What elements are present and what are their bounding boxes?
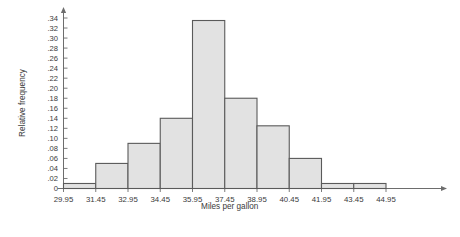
y-axis-title: Relative frequency bbox=[18, 68, 27, 137]
x-tick-label-8: 41.95 bbox=[312, 195, 332, 204]
y-tick-label-16: .32 bbox=[47, 24, 58, 33]
histogram-bar bbox=[354, 183, 386, 188]
y-tick-label-10: .20 bbox=[47, 84, 58, 93]
y-tick-label-14: .28 bbox=[47, 44, 58, 53]
histogram-bar bbox=[225, 98, 257, 188]
y-tick-label-12: .24 bbox=[47, 64, 58, 73]
histogram-bar bbox=[160, 118, 192, 188]
x-tick-label-1: 31.45 bbox=[86, 195, 106, 204]
y-tick-label-11: .22 bbox=[47, 74, 58, 83]
histogram-bar bbox=[257, 126, 289, 189]
y-tick-label-15: .30 bbox=[47, 34, 58, 43]
y-tick-label-6: .12 bbox=[47, 124, 58, 133]
y-axis: 0.02.04.06.08.10.12.14.16.18.20.22.24.26… bbox=[47, 7, 67, 193]
histogram-chart: 0.02.04.06.08.10.12.14.16.18.20.22.24.26… bbox=[0, 0, 460, 237]
x-tick-label-3: 34.45 bbox=[150, 195, 170, 204]
histogram-bar bbox=[289, 158, 321, 188]
histogram-bar bbox=[193, 21, 225, 189]
x-axis-title: Miles per gallon bbox=[201, 202, 259, 211]
y-tick-label-9: .18 bbox=[47, 94, 58, 103]
x-tick-label-10: 44.95 bbox=[376, 195, 396, 204]
chart-canvas: 0.02.04.06.08.10.12.14.16.18.20.22.24.26… bbox=[0, 0, 460, 237]
y-tick-label-2: .04 bbox=[47, 164, 58, 173]
histogram-bar bbox=[128, 143, 160, 188]
y-tick-label-0: 0 bbox=[54, 184, 58, 193]
x-tick-label-2: 32.95 bbox=[118, 195, 138, 204]
histogram-bar bbox=[64, 183, 96, 188]
histogram-bar bbox=[96, 163, 128, 188]
histogram-bar bbox=[322, 183, 354, 188]
y-tick-label-7: .14 bbox=[47, 114, 58, 123]
y-tick-label-3: .06 bbox=[47, 154, 58, 163]
y-tick-label-4: .08 bbox=[47, 144, 58, 153]
histogram-bars bbox=[64, 21, 387, 189]
x-tick-label-4: 35.95 bbox=[183, 195, 203, 204]
y-tick-label-1: .02 bbox=[47, 174, 58, 183]
y-tick-label-13: .26 bbox=[47, 54, 58, 63]
x-tick-label-7: 40.45 bbox=[279, 195, 299, 204]
x-tick-label-9: 43.45 bbox=[344, 195, 364, 204]
x-tick-label-0: 29.95 bbox=[54, 195, 74, 204]
y-tick-label-17: .34 bbox=[47, 14, 58, 23]
y-tick-label-5: .10 bbox=[47, 134, 58, 143]
y-tick-label-8: .16 bbox=[47, 104, 58, 113]
